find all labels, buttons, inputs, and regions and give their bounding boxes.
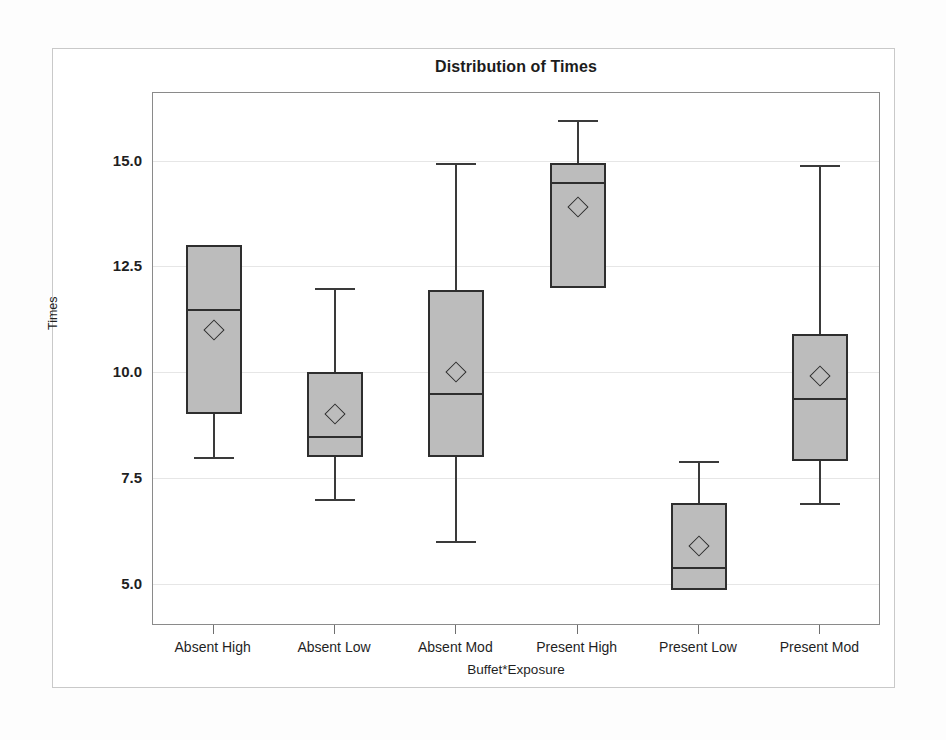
y-tick-label: 5.0 [82, 574, 142, 591]
y-tick-label: 12.5 [82, 257, 142, 274]
box-plot-group[interactable] [153, 93, 274, 624]
whisker-cap-upper [800, 165, 840, 167]
x-tick-mark [577, 625, 578, 634]
scanned-page: Distribution of Times Times 5.07.510.012… [0, 0, 946, 740]
x-tick-mark [819, 625, 820, 634]
x-tick-label: Present High [512, 639, 642, 655]
x-tick-mark [698, 625, 699, 634]
y-axis-ticks: 5.07.510.012.515.0 [72, 92, 142, 625]
whisker-cap-lower [194, 457, 234, 459]
whisker-cap-upper [558, 120, 598, 122]
whisker-upper [455, 163, 457, 290]
box-plot-group[interactable] [760, 93, 881, 624]
whisker-cap-upper [315, 288, 355, 290]
box-plot-group[interactable] [517, 93, 638, 624]
y-tick-label: 15.0 [82, 151, 142, 168]
box-plot-group[interactable] [638, 93, 759, 624]
median-line [186, 309, 242, 311]
whisker-cap-lower [800, 503, 840, 505]
median-line [671, 567, 727, 569]
x-tick-label: Absent High [148, 639, 278, 655]
plot-area [153, 93, 879, 624]
whisker-upper [577, 120, 579, 162]
x-tick-mark [334, 625, 335, 634]
x-tick-label: Present Low [633, 639, 763, 655]
y-axis-title: Times [46, 296, 60, 330]
whisker-upper [819, 165, 821, 334]
whisker-lower [455, 457, 457, 542]
x-tick-label: Absent Mod [390, 639, 520, 655]
median-line [307, 436, 363, 438]
chart-title: Distribution of Times [152, 58, 880, 76]
whisker-lower [334, 457, 336, 499]
box-plot-group[interactable] [274, 93, 395, 624]
x-tick-mark [213, 625, 214, 634]
whisker-upper [698, 461, 700, 503]
median-line [428, 393, 484, 395]
median-line [550, 182, 606, 184]
whisker-upper [334, 288, 336, 373]
box-plot-group[interactable] [396, 93, 517, 624]
y-tick-label: 10.0 [82, 363, 142, 380]
whisker-lower [819, 461, 821, 503]
x-tick-mark [455, 625, 456, 634]
x-axis-title: Buffet*Exposure [152, 662, 880, 677]
plot-frame [152, 92, 880, 625]
x-tick-label: Absent Low [269, 639, 399, 655]
whisker-cap-upper [679, 461, 719, 463]
x-tick-label: Present Mod [754, 639, 884, 655]
whisker-lower [213, 414, 215, 456]
whisker-cap-lower [436, 541, 476, 543]
whisker-cap-lower [315, 499, 355, 501]
whisker-cap-upper [436, 163, 476, 165]
y-tick-label: 7.5 [82, 468, 142, 485]
median-line [792, 398, 848, 400]
